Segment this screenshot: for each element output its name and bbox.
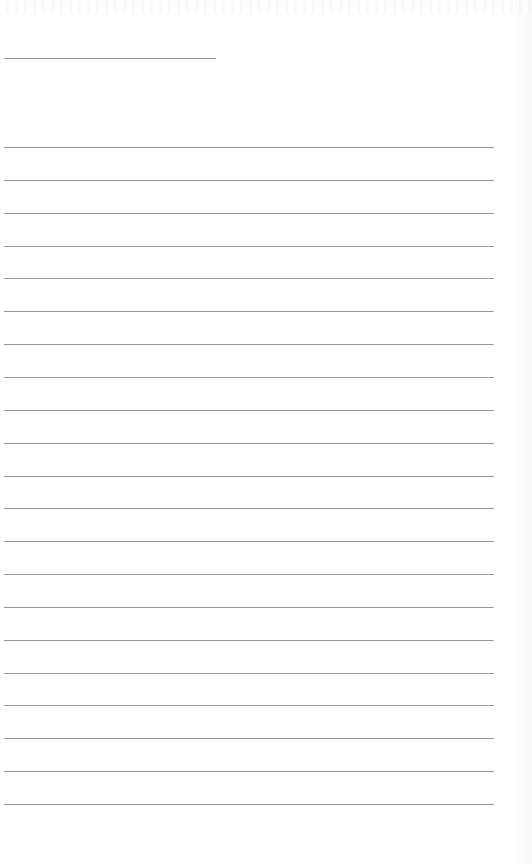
ruled-line xyxy=(4,738,494,739)
lined-page xyxy=(0,0,532,864)
ruled-line xyxy=(4,705,494,706)
ruled-line xyxy=(4,673,494,674)
ruled-line xyxy=(4,344,494,345)
ruled-line xyxy=(4,508,494,509)
ruled-line xyxy=(4,213,494,214)
ruled-line xyxy=(4,771,494,772)
ruled-line xyxy=(4,311,494,312)
header-line xyxy=(4,58,216,59)
ruled-line xyxy=(4,377,494,378)
ruled-line xyxy=(4,804,494,805)
ruled-line xyxy=(4,278,494,279)
edge-texture xyxy=(512,0,532,864)
ruled-line xyxy=(4,147,494,148)
ruled-line xyxy=(4,541,494,542)
ruled-line xyxy=(4,180,494,181)
ruled-line xyxy=(4,410,494,411)
ruled-line xyxy=(4,246,494,247)
ruled-line xyxy=(4,476,494,477)
ruled-line xyxy=(4,574,494,575)
ruled-line xyxy=(4,607,494,608)
ruled-line xyxy=(4,443,494,444)
ruled-line xyxy=(4,640,494,641)
bleed-through-texture xyxy=(0,0,532,14)
